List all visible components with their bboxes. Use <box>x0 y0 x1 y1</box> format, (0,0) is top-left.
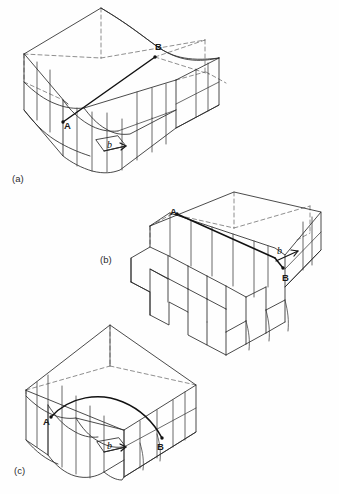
panel-b-grid <box>170 213 268 297</box>
panel-caption-a: (a) <box>12 173 24 184</box>
panel-a-node-b <box>153 55 156 58</box>
panel-a-top-surface <box>24 8 219 60</box>
panel-c-hidden-edges <box>26 325 196 396</box>
panel-a-dislocation-line <box>61 55 156 123</box>
figure-container: A B b <box>0 0 339 494</box>
dislocation-figure: A B b <box>0 0 339 494</box>
panel-a-grid <box>37 62 219 172</box>
panel-c-node-b <box>160 436 163 439</box>
panel-c-grid <box>37 325 185 478</box>
panel-b-label-b: B <box>282 272 289 283</box>
panel-caption-c: (c) <box>14 465 25 476</box>
panel-c-label-a: A <box>43 416 50 427</box>
panel-a-label-b: B <box>155 41 162 52</box>
panel-c-label-b: B <box>157 441 164 452</box>
panel-b-label-a: A <box>170 206 177 217</box>
panel-b-staircase <box>131 226 285 355</box>
panel-a-block-outline <box>24 54 219 173</box>
panel-b-right-face <box>285 212 321 287</box>
panel-c-block-outline <box>26 385 196 480</box>
panel-caption-b: (b) <box>100 254 112 265</box>
panel-b-top-terrace <box>150 192 321 255</box>
panel-c-label-burgers: b <box>107 440 112 451</box>
panel-b-hidden-edges <box>150 192 310 247</box>
panel-a-slip-plane <box>24 80 176 134</box>
panel-b-slip-traces <box>246 300 288 350</box>
panel-b-label-burgers: b <box>277 245 282 256</box>
panel-b-node-b <box>281 266 284 269</box>
panel-b-screw-dislocation: A B b <box>131 192 321 355</box>
panel-a-label-a: A <box>64 120 71 131</box>
panel-c-mixed-dislocation: A B b <box>26 325 196 480</box>
panel-a-edge-dislocation: A B b <box>24 8 226 173</box>
panel-a-label-burgers: b <box>107 139 112 150</box>
